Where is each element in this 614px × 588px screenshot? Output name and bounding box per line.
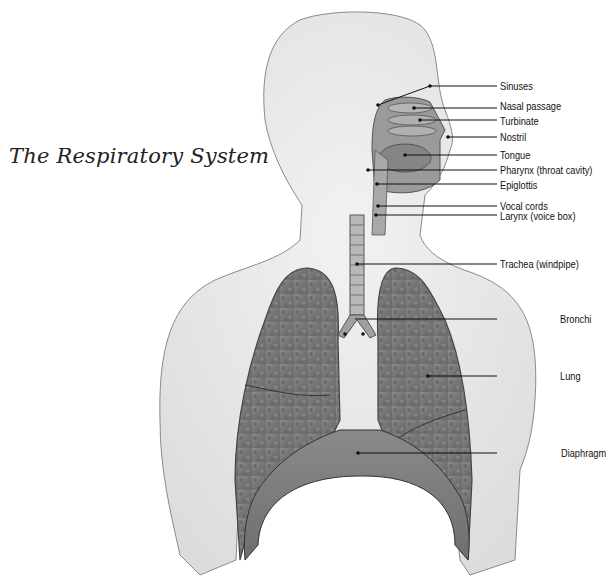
body-silhouette: [160, 12, 536, 575]
label-larynx: Larynx (voice box): [500, 210, 576, 222]
respiratory-diagram: The Respiratory System Sinuses Nasal pas…: [0, 0, 614, 588]
label-nostril: Nostril: [500, 131, 526, 143]
label-tongue: Tongue: [500, 149, 530, 161]
label-nasal-passage: Nasal passage: [500, 100, 561, 112]
label-trachea: Trachea (windpipe): [500, 258, 579, 270]
label-epiglottis: Epiglottis: [500, 179, 537, 191]
diagram-title: The Respiratory System: [9, 144, 269, 168]
label-sinuses: Sinuses: [500, 80, 533, 92]
label-diaphragm: Diaphragm: [561, 447, 606, 459]
label-turbinate: Turbinate: [500, 115, 539, 127]
label-lung: Lung: [560, 370, 581, 382]
label-pharynx: Pharynx (throat cavity): [500, 164, 592, 176]
label-bronchi: Bronchi: [560, 313, 591, 325]
